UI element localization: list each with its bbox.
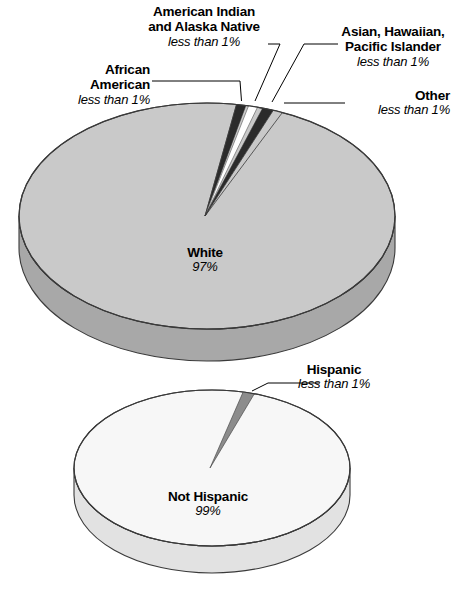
label-african-american-name-line1: African: [10, 62, 150, 77]
label-hispanic-name: Hispanic: [272, 362, 396, 377]
ethnicity-pie-chart: [74, 383, 350, 573]
label-not-hispanic-value: 99%: [142, 504, 274, 519]
pie-chart-figure: American Indian and Alaska Native less t…: [0, 0, 456, 590]
label-other-value: less than 1%: [336, 103, 450, 118]
label-other-name: Other: [336, 88, 450, 103]
label-african-american-name-line2: American: [10, 77, 150, 92]
leader-line-asian-hawaiian-pacific: [272, 44, 338, 102]
label-not-hispanic-name: Not Hispanic: [142, 489, 274, 504]
race-slice-white: [19, 103, 395, 329]
label-american-indian-name-line2: and Alaska Native: [124, 19, 284, 34]
label-american-indian-and-alaska-native: American Indian and Alaska Native less t…: [124, 4, 284, 49]
label-white: White 97%: [155, 245, 255, 275]
leader-line-african-american: [152, 81, 242, 101]
label-hispanic-value: less than 1%: [272, 377, 396, 392]
label-hispanic: Hispanic less than 1%: [272, 362, 396, 392]
label-asian-value: less than 1%: [330, 55, 456, 70]
label-asian-name-line1: Asian, Hawaiian,: [330, 24, 456, 39]
label-african-american: African American less than 1%: [10, 62, 150, 107]
label-asian-hawaiian-pacific-islander: Asian, Hawaiian, Pacific Islander less t…: [330, 24, 456, 69]
leader-line-american-indian: [255, 44, 280, 101]
label-american-indian-value: less than 1%: [124, 35, 284, 50]
label-african-american-value: less than 1%: [10, 93, 150, 108]
label-asian-name-line2: Pacific Islander: [330, 39, 456, 54]
label-white-name: White: [155, 245, 255, 260]
label-not-hispanic: Not Hispanic 99%: [142, 489, 274, 519]
label-white-value: 97%: [155, 260, 255, 275]
ethnicity-slice-not-hispanic: [74, 390, 350, 546]
label-other: Other less than 1%: [336, 88, 450, 118]
label-american-indian-name-line1: American Indian: [124, 4, 284, 19]
